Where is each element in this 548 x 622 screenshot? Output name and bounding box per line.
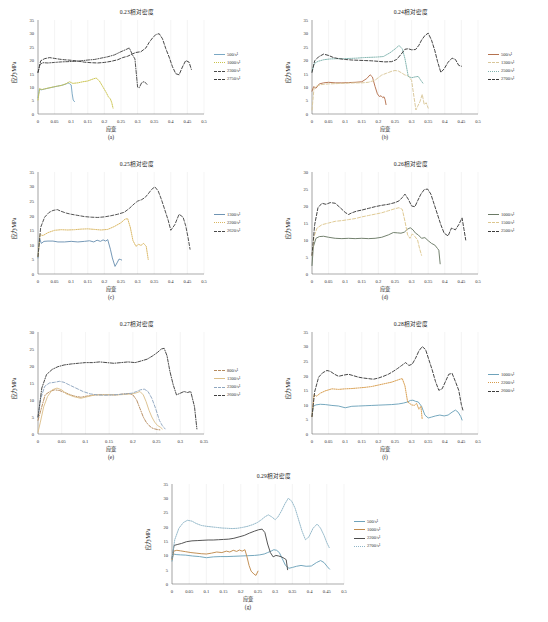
- svg-text:0.35: 0.35: [424, 119, 433, 124]
- legend-label: 1000/s¹: [501, 211, 514, 219]
- legend-item: 2200/s¹: [354, 534, 380, 542]
- legend-swatch-icon: [488, 54, 499, 55]
- svg-text:10: 10: [303, 238, 308, 243]
- svg-text:0.1: 0.1: [204, 589, 210, 594]
- chart-panel-c: 0.25相对密度00.050.10.150.20.250.30.350.40.4…: [0, 152, 274, 312]
- svg-text:0: 0: [166, 582, 169, 587]
- legend-swatch-icon: [354, 529, 365, 530]
- legend-item: 2500/s¹: [488, 227, 514, 235]
- y-axis-label: 应力/MPa: [284, 62, 291, 83]
- svg-text:5: 5: [32, 415, 35, 420]
- svg-text:15: 15: [29, 228, 34, 233]
- legend-label: 500/s¹: [367, 518, 378, 526]
- svg-text:0: 0: [32, 272, 35, 277]
- svg-text:0: 0: [32, 112, 35, 117]
- panel-caption: (b): [302, 134, 468, 140]
- legend-label: 1000/s¹: [227, 59, 240, 67]
- svg-text:0.45: 0.45: [183, 279, 192, 284]
- svg-text:5: 5: [32, 257, 35, 262]
- legend-swatch-icon: [214, 62, 225, 63]
- legend-label: 2200/s¹: [227, 219, 240, 227]
- svg-text:15: 15: [29, 381, 34, 386]
- legend-label: 1300/s¹: [227, 375, 240, 383]
- chart-legend: 500/s¹1300/s¹2500/s¹2700/s¹: [488, 51, 514, 84]
- svg-text:10: 10: [163, 553, 168, 558]
- legend-swatch-icon: [214, 395, 225, 396]
- legend-swatch-icon: [214, 387, 225, 388]
- legend-item: 2300/s¹: [214, 67, 240, 75]
- legend-swatch-icon: [214, 79, 225, 80]
- svg-text:35: 35: [303, 18, 308, 23]
- svg-text:0: 0: [32, 432, 35, 437]
- legend-swatch-icon: [354, 546, 365, 547]
- svg-text:0.35: 0.35: [150, 279, 159, 284]
- legend-label: 2620/s¹: [227, 227, 240, 235]
- svg-text:0.4: 0.4: [307, 589, 313, 594]
- legend-swatch-icon: [488, 79, 499, 80]
- svg-text:0: 0: [311, 119, 314, 124]
- svg-text:20: 20: [29, 214, 34, 219]
- chart-panel-a: 0.23相对密度00.050.10.150.20.250.30.350.40.4…: [0, 0, 274, 152]
- svg-text:20: 20: [303, 204, 308, 209]
- svg-text:0.2: 0.2: [130, 439, 136, 444]
- legend-item: 800/s¹: [214, 367, 240, 375]
- legend-item: 1300/s¹: [214, 375, 240, 383]
- legend-label: 2700/s¹: [367, 542, 380, 550]
- svg-text:5: 5: [166, 568, 169, 573]
- x-axis-label: 应变: [302, 285, 468, 293]
- legend-label: 2200/s¹: [367, 534, 380, 542]
- svg-text:35: 35: [163, 482, 168, 487]
- svg-text:0.35: 0.35: [150, 119, 159, 124]
- legend-item: 2700/s¹: [354, 542, 380, 550]
- svg-text:5: 5: [306, 98, 309, 103]
- svg-text:30: 30: [29, 184, 34, 189]
- legend-swatch-icon: [488, 391, 499, 392]
- svg-text:15: 15: [303, 388, 308, 393]
- svg-text:0.15: 0.15: [358, 279, 367, 284]
- svg-text:0.45: 0.45: [457, 439, 466, 444]
- svg-text:0.05: 0.05: [325, 279, 334, 284]
- legend-item: 1000/s¹: [488, 211, 514, 219]
- chart-legend: 500/s¹1000/s¹2200/s¹2700/s¹: [354, 518, 380, 551]
- series-line: [38, 83, 75, 102]
- y-axis-label: 应力/MPa: [10, 62, 17, 83]
- svg-text:0.05: 0.05: [58, 439, 67, 444]
- legend-item: 500/s¹: [214, 51, 240, 59]
- legend-item: 1300/s¹: [488, 59, 514, 67]
- series-line: [38, 238, 122, 267]
- svg-text:25: 25: [303, 359, 308, 364]
- svg-text:15: 15: [303, 221, 308, 226]
- svg-text:5: 5: [32, 98, 35, 103]
- svg-text:20: 20: [303, 58, 308, 63]
- legend-item: 1300/s¹: [214, 211, 240, 219]
- svg-text:10: 10: [29, 85, 34, 90]
- x-axis-label: 应变: [162, 595, 334, 603]
- svg-text:20: 20: [163, 525, 168, 530]
- x-axis-label: 应变: [28, 445, 194, 453]
- svg-text:0: 0: [171, 589, 174, 594]
- chart-panel-e: 0.27相对密度00.050.10.150.20.250.30.35051015…: [0, 312, 274, 472]
- chart-legend: 1000/s¹1500/s¹2500/s¹: [488, 211, 514, 236]
- svg-text:10: 10: [29, 243, 34, 248]
- legend-label: 2500/s¹: [501, 227, 514, 235]
- chart-panel-d: 0.26相对密度00.050.10.150.20.250.30.350.40.4…: [274, 152, 548, 312]
- svg-text:30: 30: [303, 170, 308, 175]
- legend-label: 1500/s¹: [501, 219, 514, 227]
- legend-swatch-icon: [354, 521, 365, 522]
- chart-panel-b: 0.24相对密度00.050.10.150.20.250.30.350.40.4…: [274, 0, 548, 152]
- panel-caption: (a): [28, 134, 194, 140]
- chart-legend: 1000/s¹2200/s¹2600/s¹: [488, 371, 514, 396]
- svg-text:0.1: 0.1: [83, 439, 89, 444]
- svg-text:0.25: 0.25: [153, 439, 162, 444]
- series-line: [312, 33, 461, 72]
- svg-text:15: 15: [303, 72, 308, 77]
- x-axis-label: 应变: [302, 125, 468, 133]
- svg-text:30: 30: [303, 31, 308, 36]
- svg-text:10: 10: [303, 403, 308, 408]
- legend-label: 2600/s¹: [227, 391, 240, 399]
- legend-item: 1000/s¹: [214, 59, 240, 67]
- legend-label: 800/s¹: [227, 367, 238, 375]
- svg-text:0.2: 0.2: [376, 119, 382, 124]
- svg-text:0.05: 0.05: [325, 439, 334, 444]
- chart-legend: 500/s¹1000/s¹2300/s¹2750/s¹: [214, 51, 240, 84]
